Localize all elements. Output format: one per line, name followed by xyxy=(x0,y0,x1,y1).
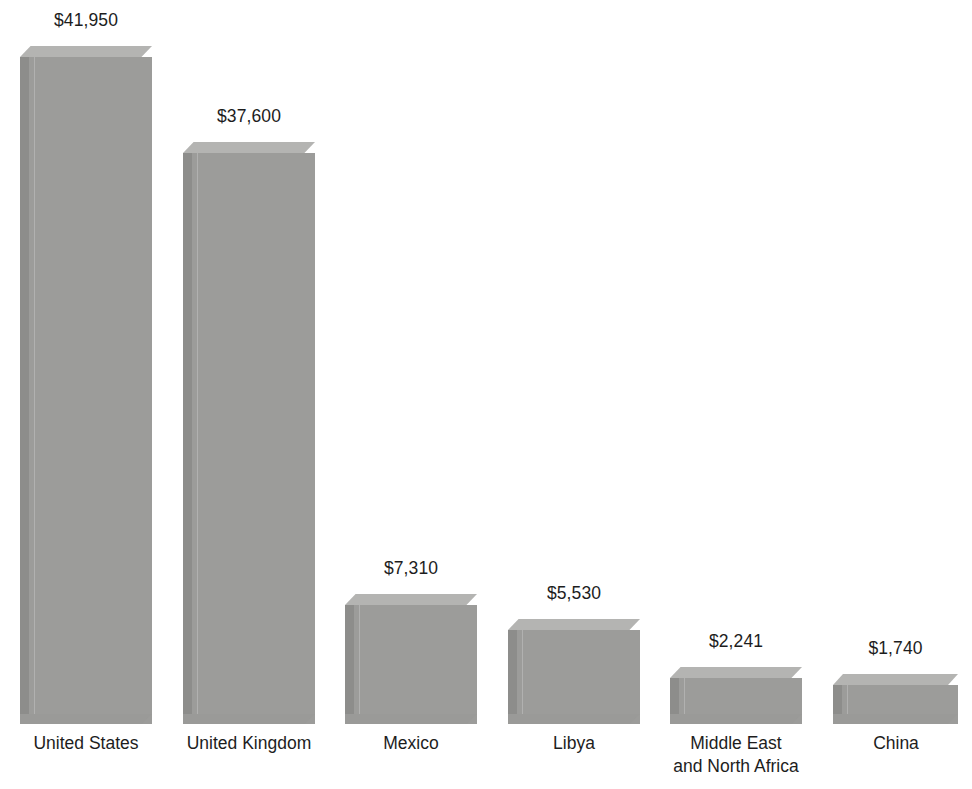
category-label-libya: Libya xyxy=(498,732,650,755)
bar-top-face xyxy=(833,674,958,685)
bar-value-label-libya: $5,530 xyxy=(508,583,640,604)
bar-top-face xyxy=(670,667,802,678)
bar-left-face xyxy=(345,605,354,724)
bar-value-label-united-states: $41,950 xyxy=(20,10,152,31)
bar-block-china xyxy=(833,674,958,724)
bar-base-face xyxy=(670,714,802,724)
bar-seam xyxy=(359,605,360,724)
bar-value-label-united-kingdom: $37,600 xyxy=(183,106,315,127)
bar-base-face xyxy=(20,714,152,724)
category-label-mexico: Mexico xyxy=(335,732,487,755)
bar-value-label-middle-east-and-north-africa: $2,241 xyxy=(670,631,802,652)
bar-top-face xyxy=(345,594,477,605)
bar-block-united-kingdom xyxy=(183,142,315,724)
category-label-united-states: United States xyxy=(10,732,162,755)
bar-top-face xyxy=(508,619,640,630)
bar-chart: $41,950 $37,600 $7,310 xyxy=(0,0,972,789)
bar-base-face xyxy=(183,714,315,724)
bar-left-face xyxy=(20,57,29,724)
bar-value-label-mexico: $7,310 xyxy=(345,558,477,579)
bar-block-libya xyxy=(508,619,640,724)
bar-seam xyxy=(522,630,523,724)
bar-top-face xyxy=(183,142,315,153)
category-label-middle-east-and-north-africa: Middle East and North Africa xyxy=(655,732,817,778)
bar-block-mexico xyxy=(345,594,477,724)
bar-left-face xyxy=(183,153,192,724)
bar-front-face xyxy=(183,153,315,724)
category-label-china: China xyxy=(826,732,966,755)
bar-front-face xyxy=(20,57,152,724)
bar-block-united-states xyxy=(20,46,152,724)
bar-left-face xyxy=(508,630,517,724)
bar-front-face xyxy=(508,630,640,724)
bar-seam xyxy=(197,153,198,724)
bar-base-face xyxy=(345,714,477,724)
bar-base-face xyxy=(508,714,640,724)
bar-base-face xyxy=(833,714,958,724)
bar-block-middle-east-and-north-africa xyxy=(670,667,802,724)
bar-seam xyxy=(34,57,35,724)
bar-value-label-china: $1,740 xyxy=(833,638,958,659)
bar-top-face xyxy=(20,46,152,57)
category-label-united-kingdom: United Kingdom xyxy=(170,732,328,755)
bar-front-face xyxy=(345,605,477,724)
